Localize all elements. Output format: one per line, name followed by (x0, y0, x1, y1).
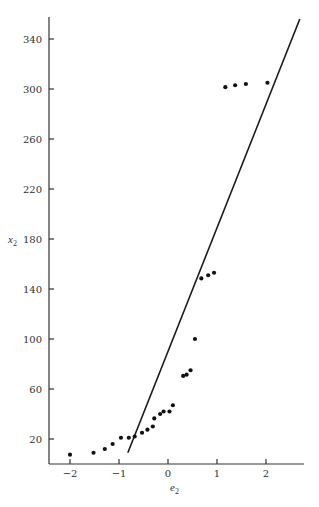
data-point (161, 409, 165, 413)
data-point (265, 81, 269, 85)
data-point (145, 428, 149, 432)
data-point (91, 451, 95, 455)
data-point (140, 431, 144, 435)
data-point (119, 436, 123, 440)
data-point (167, 409, 171, 413)
y-tick-label: 180 (23, 234, 42, 245)
x-ticks: −2−1012 (63, 459, 270, 479)
x-tick-label: −2 (63, 468, 78, 479)
y-tick-label: 300 (23, 84, 42, 95)
x-tick-label: 2 (263, 468, 269, 479)
data-point (193, 337, 197, 341)
data-point (244, 82, 248, 86)
x-tick-label: −1 (112, 468, 127, 479)
fit-line (128, 19, 300, 453)
x-tick-label: 1 (214, 468, 220, 479)
data-points (68, 81, 270, 457)
data-point (158, 412, 162, 416)
data-point (206, 273, 210, 277)
data-point (212, 271, 216, 275)
reference-line (128, 19, 300, 453)
data-point (233, 83, 237, 87)
y-tick-label: 340 (23, 34, 42, 45)
data-point (171, 403, 175, 407)
data-point (199, 276, 203, 280)
y-tick-label: 260 (23, 134, 42, 145)
data-point (103, 447, 107, 451)
y-axis-label: x2 (7, 233, 17, 248)
data-point (111, 442, 115, 446)
y-tick-label: 60 (29, 384, 42, 395)
data-point (185, 373, 189, 377)
data-point (68, 453, 72, 457)
y-tick-label: 20 (29, 434, 42, 445)
y-tick-label: 100 (23, 334, 42, 345)
scatter-chart: 2060100140180220260300340 −2−1012 x2 e2 (0, 0, 319, 507)
x-tick-label: 0 (165, 468, 171, 479)
data-point (223, 85, 227, 89)
data-point (133, 434, 137, 438)
y-tick-label: 140 (23, 284, 42, 295)
x-axis-label: e2 (170, 481, 179, 496)
data-point (152, 416, 156, 420)
data-point (151, 424, 155, 428)
data-point (188, 368, 192, 372)
data-point (127, 436, 131, 440)
y-tick-label: 220 (23, 184, 42, 195)
